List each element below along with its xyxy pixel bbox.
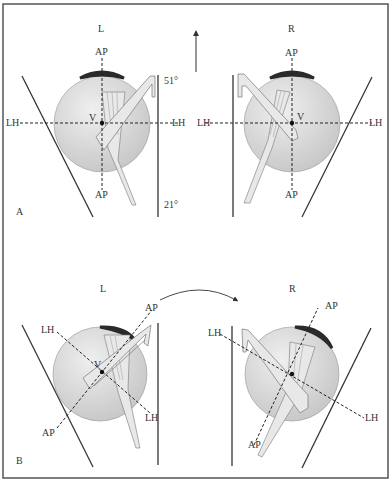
rotation-arrow-icon [160, 290, 236, 300]
axis-label-ap-bottom: AP [95, 189, 108, 200]
panel-b-left-eye: L V AP LH LH AP [22, 283, 158, 467]
axis-label-lh-right: LH [172, 117, 185, 128]
angle-top: 51° [164, 75, 178, 86]
vertex-label: V [297, 111, 305, 122]
figure: L AP V LH LH AP 51° 21° A R AP [0, 0, 391, 491]
vertex-point [290, 121, 294, 125]
panel-label-b: B [16, 455, 23, 466]
axis-label-lh-top: LH [208, 327, 221, 338]
side-label-l: L [98, 23, 104, 34]
angle-bottom: 21° [164, 199, 178, 210]
axis-label-lh-bottom: LH [365, 412, 378, 423]
vertex-point [100, 370, 104, 374]
axis-label-ap-top: AP [325, 300, 338, 311]
vertex-label: V [94, 359, 102, 370]
axis-label-ap-top: AP [145, 302, 158, 313]
side-label-l: L [100, 283, 106, 294]
axis-label-ap-bottom: AP [248, 439, 261, 450]
axis-label-lh-top: LH [41, 324, 54, 335]
vertex-point [100, 121, 104, 125]
panel-a-left-eye: L AP V LH LH AP 51° 21° [6, 23, 185, 217]
axis-label-ap-top: AP [95, 46, 108, 57]
figure-caption [2, 484, 391, 491]
axis-label-ap-top: AP [285, 47, 298, 58]
vertex-point [290, 372, 294, 376]
side-label-r: R [289, 283, 296, 294]
side-label-r: R [288, 23, 295, 34]
axis-label-ap-bottom: AP [285, 189, 298, 200]
axis-label-lh-left: LH [197, 117, 210, 128]
axis-label-lh-bottom: LH [145, 412, 158, 423]
axis-label-ap-bottom: AP [42, 427, 55, 438]
panel-a-right-eye: R AP V LH LH AP [197, 23, 382, 217]
axis-label-lh-right: LH [369, 117, 382, 128]
panel-b-right-eye: R AP LH LH AP [208, 283, 378, 468]
vertex-label: V [89, 112, 97, 123]
panel-label-a: A [16, 206, 24, 217]
axis-label-lh-left: LH [6, 117, 19, 128]
figure-frame [3, 4, 388, 478]
